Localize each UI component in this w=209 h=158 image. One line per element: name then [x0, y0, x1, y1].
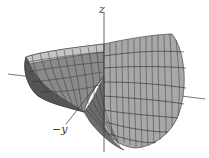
neg-y-axis-label: −y — [52, 124, 67, 135]
surface-plot — [0, 0, 209, 158]
z-axis-label: z — [99, 4, 105, 15]
